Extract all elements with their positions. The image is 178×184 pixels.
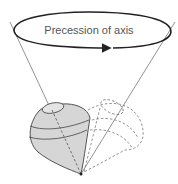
- precession-label: Precession of axis: [44, 24, 134, 36]
- ghost-top-dashed: [84, 96, 143, 172]
- precession-diagram: Precession of axis: [0, 0, 178, 184]
- pivot-point: [80, 173, 83, 176]
- spinning-top: [29, 101, 90, 174]
